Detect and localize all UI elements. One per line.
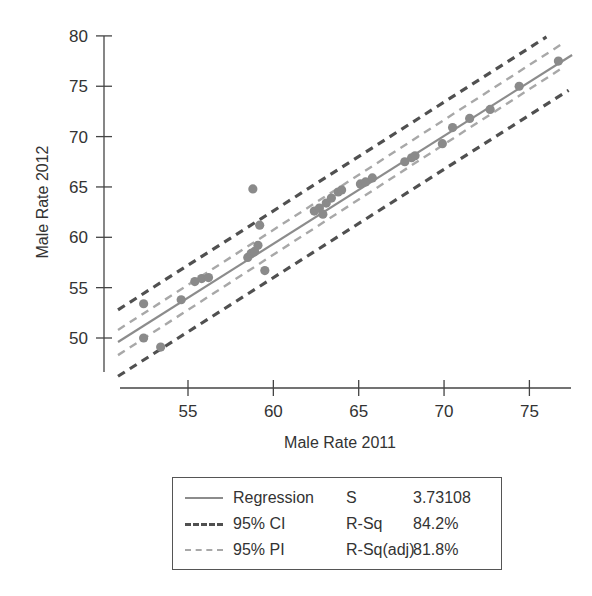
data-point xyxy=(255,221,264,230)
data-point xyxy=(204,273,213,282)
light-dashed-line-icon xyxy=(185,549,223,551)
ci-band-line xyxy=(118,37,546,310)
y-axis-title: Male Rate 2012 xyxy=(34,145,51,258)
pi-band-line xyxy=(118,67,564,355)
data-point xyxy=(260,266,269,275)
scatter-plot: 505560657075805560657075 Male Rate 2011 … xyxy=(0,0,592,470)
legend-row-regression: Regression S 3.73108 xyxy=(173,485,501,511)
data-point xyxy=(438,139,447,148)
data-point xyxy=(486,105,495,114)
data-point xyxy=(318,210,327,219)
solid-line-icon xyxy=(185,497,223,499)
data-point xyxy=(448,123,457,132)
dark-dashed-line-icon xyxy=(185,523,223,526)
y-tick-label: 70 xyxy=(69,128,88,147)
x-tick-label: 65 xyxy=(349,402,368,421)
data-point xyxy=(515,82,524,91)
x-tick-label: 60 xyxy=(264,402,283,421)
data-point xyxy=(410,151,419,160)
ci-band-line xyxy=(118,90,569,376)
legend-stat: R-Sq(adj) xyxy=(346,537,414,563)
y-tick-label: 65 xyxy=(69,178,88,197)
y-tick-label: 50 xyxy=(69,329,88,348)
legend-label: 95% PI xyxy=(233,537,285,563)
data-point xyxy=(554,56,563,65)
legend-row-pi: 95% PI R-Sq(adj) 81.8% xyxy=(173,537,501,563)
data-point xyxy=(253,241,262,250)
fit-lines xyxy=(118,37,572,376)
data-point xyxy=(177,295,186,304)
x-tick-label: 55 xyxy=(179,402,198,421)
legend-label: Regression xyxy=(233,485,314,511)
legend-value: 84.2% xyxy=(413,511,458,537)
regression-line xyxy=(118,55,572,342)
legend-stat: R-Sq xyxy=(346,511,382,537)
legend: Regression S 3.73108 95% CI R-Sq 84.2% 9… xyxy=(172,477,502,570)
legend-label: 95% CI xyxy=(233,511,285,537)
data-point xyxy=(465,114,474,123)
x-tick-label: 75 xyxy=(520,402,539,421)
data-point xyxy=(337,185,346,194)
y-tick-label: 80 xyxy=(69,27,88,46)
legend-stat: S xyxy=(346,485,357,511)
x-tick-label: 70 xyxy=(435,402,454,421)
data-point xyxy=(139,299,148,308)
legend-row-ci: 95% CI R-Sq 84.2% xyxy=(173,511,501,537)
y-tick-label: 60 xyxy=(69,228,88,247)
data-point xyxy=(156,342,165,351)
y-tick-label: 75 xyxy=(69,77,88,96)
legend-value: 81.8% xyxy=(413,537,458,563)
legend-value: 3.73108 xyxy=(413,485,471,511)
y-tick-label: 55 xyxy=(69,279,88,298)
data-point xyxy=(139,333,148,342)
data-point xyxy=(248,184,257,193)
data-point xyxy=(368,173,377,182)
x-axis-title: Male Rate 2011 xyxy=(284,434,396,451)
